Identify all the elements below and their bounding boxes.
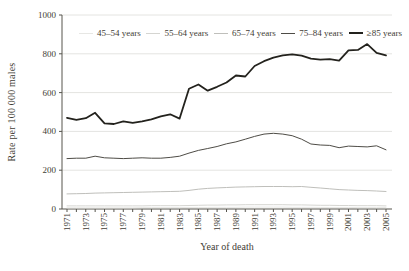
series-line-85-plus	[67, 44, 386, 124]
y-tick-label: 1000	[38, 10, 57, 20]
x-tick-label: 1991	[250, 213, 260, 231]
y-tick-label: 400	[43, 126, 57, 136]
chart-canvas: 0200400600800100019711973197519771979198…	[0, 0, 409, 271]
legend-item-75-84: 75–84 years	[281, 28, 343, 38]
legend-label: 65–74 years	[232, 28, 276, 38]
x-tick-label: 1995	[287, 213, 297, 232]
x-tick-label: 1993	[268, 213, 278, 232]
x-tick-label: 1981	[156, 213, 166, 231]
legend-label: ≥85 years	[367, 28, 402, 38]
legend-item-45-54: 45–54 years	[79, 28, 141, 38]
legend-line-sample	[214, 33, 228, 34]
legend-item-55-64: 55–64 years	[146, 28, 208, 38]
line-chart-figure: 0200400600800100019711973197519771979198…	[0, 0, 409, 271]
legend-label: 75–84 years	[299, 28, 343, 38]
legend-line-sample	[349, 32, 363, 34]
x-tick-label: 1997	[306, 213, 316, 232]
x-tick-label: 2003	[362, 213, 372, 232]
legend-line-sample	[146, 33, 160, 34]
x-tick-label: 1983	[175, 213, 185, 232]
series-line-45-54	[67, 207, 386, 208]
y-tick-label: 800	[43, 49, 57, 59]
y-tick-label: 600	[43, 88, 57, 98]
x-tick-label: 2001	[343, 213, 353, 231]
legend-label: 55–64 years	[164, 28, 208, 38]
legend-item-85-plus: ≥85 years	[349, 28, 402, 38]
y-tick-label: 200	[43, 165, 57, 175]
series-line-75-84	[67, 133, 386, 158]
x-axis-title: Year of death	[200, 241, 253, 252]
x-tick-label: 1975	[99, 213, 109, 232]
series-line-65-74	[67, 187, 386, 194]
legend: 45–54 years 55–64 years 65–74 years 75–8…	[79, 28, 402, 38]
legend-item-65-74: 65–74 years	[214, 28, 276, 38]
x-tick-label: 1989	[231, 213, 241, 232]
y-axis-title: Rate per 100 000 males	[6, 63, 17, 162]
x-tick-label: 1979	[137, 213, 147, 232]
x-tick-label: 1987	[212, 213, 222, 232]
x-tick-label: 1999	[325, 213, 335, 232]
x-tick-label: 1971	[62, 213, 72, 231]
legend-line-sample	[79, 33, 93, 34]
x-tick-label: 1977	[118, 213, 128, 232]
y-tick-label: 0	[52, 204, 57, 214]
legend-label: 45–54 years	[97, 28, 141, 38]
series-line-55-64	[67, 205, 386, 206]
x-tick-label: 1973	[81, 213, 91, 232]
x-tick-label: 1985	[193, 213, 203, 232]
legend-line-sample	[281, 33, 295, 34]
x-tick-label: 2005	[381, 213, 391, 232]
